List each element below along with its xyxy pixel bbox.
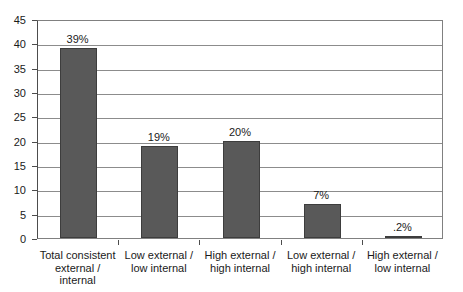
y-axis: 051015202530354045 — [0, 0, 33, 292]
x-category-label-line: High external / — [199, 249, 280, 262]
y-tick-label: 5 — [20, 210, 26, 221]
x-category-label-line: Low external / — [281, 249, 362, 262]
y-tick-label: 20 — [14, 137, 26, 148]
bar-value-label: 19% — [129, 132, 189, 143]
gridline — [38, 94, 442, 95]
x-tick-mark — [281, 240, 282, 245]
x-category-label: High external /high internal — [199, 249, 280, 274]
y-tick-mark — [32, 239, 37, 240]
x-category-label-line: high internal — [199, 262, 280, 275]
x-category-label-line: external / — [37, 262, 118, 275]
bar-value-label: 39% — [48, 34, 108, 45]
x-tick-mark — [199, 240, 200, 245]
x-tick-mark — [118, 240, 119, 245]
x-category-label: Total consistentexternal /internal — [37, 249, 118, 287]
bar — [223, 141, 260, 238]
y-tick-label: 15 — [14, 161, 26, 172]
y-tick-label: 45 — [14, 15, 26, 26]
gridline — [38, 70, 442, 71]
gridline — [38, 118, 442, 119]
x-category-label-line: internal — [37, 274, 118, 287]
bar — [385, 236, 422, 238]
y-tick-label: 25 — [14, 112, 26, 123]
y-tick-label: 30 — [14, 88, 26, 99]
bar — [141, 146, 178, 238]
x-category-label: High external /low internal — [362, 249, 443, 274]
x-category-label-line: low internal — [362, 262, 443, 275]
bar — [60, 48, 97, 238]
bar-value-label: 7% — [291, 190, 351, 201]
x-category-label: Low external /low internal — [118, 249, 199, 274]
x-category-label-line: high internal — [281, 262, 362, 275]
y-tick-label: 0 — [20, 234, 26, 245]
x-category-label-line: Low external / — [118, 249, 199, 262]
x-category-label-line: High external / — [362, 249, 443, 262]
y-tick-label: 40 — [14, 39, 26, 50]
x-category-label-line: Total consistent — [37, 249, 118, 262]
bar — [304, 204, 341, 238]
bar-value-label: 20% — [210, 127, 270, 138]
y-tick-label: 10 — [14, 185, 26, 196]
x-category-label: Low external /high internal — [281, 249, 362, 274]
x-category-label-line: low internal — [118, 262, 199, 275]
bar-chart: 051015202530354045 Total consistentexter… — [0, 0, 463, 292]
y-tick-label: 35 — [14, 64, 26, 75]
x-tick-mark — [362, 240, 363, 245]
bar-value-label: .2% — [372, 222, 432, 233]
